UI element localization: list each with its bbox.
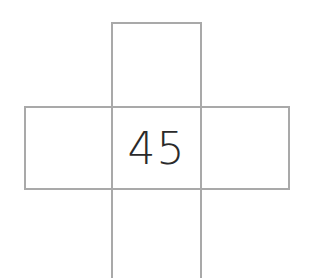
cell-bottom [111,188,202,278]
center-number: 45 [111,127,202,171]
cell-top [111,22,202,108]
cell-right [200,106,290,190]
cell-left [24,106,113,190]
